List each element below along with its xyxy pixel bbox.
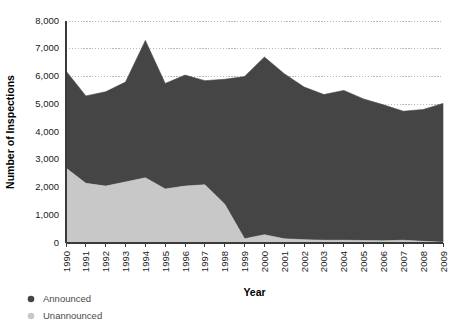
x-tick-label: 1997 xyxy=(199,251,210,272)
y-tick-label: 2,000 xyxy=(35,181,59,192)
x-tick-label: 2004 xyxy=(338,251,349,272)
y-tick-label: 7,000 xyxy=(35,42,59,53)
x-tick-label: 1998 xyxy=(219,251,230,272)
x-tick-label: 1992 xyxy=(100,251,111,272)
y-tick-label: 3,000 xyxy=(35,153,59,164)
x-tick-label: 2000 xyxy=(259,251,270,272)
x-tick-label: 2006 xyxy=(378,251,389,272)
y-axis-title: Number of Inspections xyxy=(4,75,16,189)
x-tick-label: 1993 xyxy=(120,251,131,272)
x-tick-label: 1999 xyxy=(239,251,250,272)
y-tick-label: 0 xyxy=(54,237,59,248)
x-tick-label: 2005 xyxy=(358,251,369,272)
x-tick-label: 1991 xyxy=(80,251,91,272)
legend-label-unannounced: Unannounced xyxy=(43,310,102,321)
y-tick-label: 8,000 xyxy=(35,15,59,26)
y-axis-tick-labels: 01,0002,0003,0004,0005,0006,0007,0008,00… xyxy=(35,15,59,248)
y-tick-label: 1,000 xyxy=(35,209,59,220)
legend-marker-announced xyxy=(28,296,35,303)
chart-container: 01,0002,0003,0004,0005,0006,0007,0008,00… xyxy=(0,0,466,333)
x-tick-label: 2008 xyxy=(418,251,429,272)
x-tick-label: 1996 xyxy=(180,251,191,272)
x-axis-title: Year xyxy=(243,286,265,298)
x-tick-label: 2002 xyxy=(299,251,310,272)
x-tick-label: 2009 xyxy=(438,251,449,272)
x-tick-label: 1994 xyxy=(140,251,151,272)
x-tick-label: 2003 xyxy=(318,251,329,272)
x-tick-label: 2001 xyxy=(279,251,290,272)
y-tick-label: 6,000 xyxy=(35,70,59,81)
legend-label-announced: Announced xyxy=(43,293,91,304)
x-tick-label: 1990 xyxy=(61,251,72,272)
stacked-area-chart: 01,0002,0003,0004,0005,0006,0007,0008,00… xyxy=(0,0,466,333)
x-tick-label: 1995 xyxy=(160,251,171,272)
y-tick-label: 4,000 xyxy=(35,126,59,137)
legend-marker-unannounced xyxy=(28,313,35,320)
y-tick-label: 5,000 xyxy=(35,98,59,109)
x-tick-label: 2007 xyxy=(398,251,409,272)
